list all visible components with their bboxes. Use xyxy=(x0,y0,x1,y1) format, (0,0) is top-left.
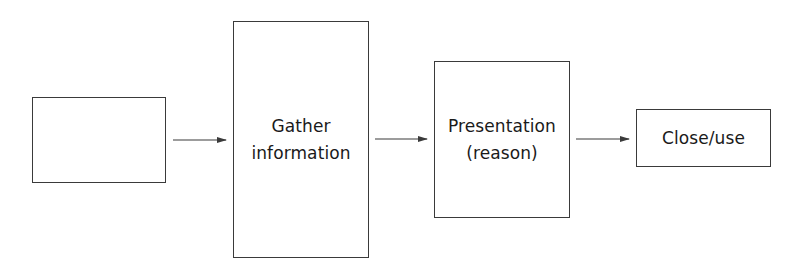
close-use-label: Close/use xyxy=(662,125,745,152)
gather-information-box: Gather information xyxy=(233,21,369,258)
gather-information-label: Gather information xyxy=(251,113,350,167)
close-use-box: Close/use xyxy=(636,109,771,167)
presentation-label: Presentation (reason) xyxy=(448,113,556,167)
empty-start-box xyxy=(32,97,166,183)
presentation-box: Presentation (reason) xyxy=(434,61,570,218)
